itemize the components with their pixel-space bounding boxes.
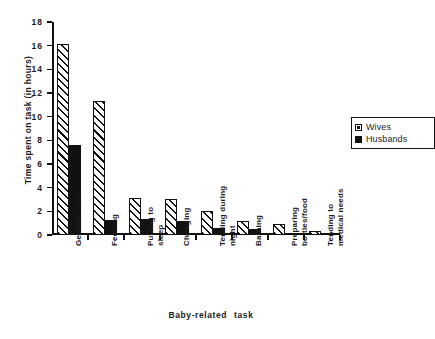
legend: Wives Husbands [351, 117, 435, 149]
y-axis-tick-label: 10 [32, 112, 43, 122]
x-axis-category-label: Tending tomedical needs [326, 188, 345, 246]
x-axis-category-label: Preparingbottles/food [290, 198, 309, 246]
bar-group [129, 22, 153, 235]
y-axis-tick: 18 [47, 21, 52, 22]
bar-group [165, 22, 189, 235]
x-axis-title: Baby-related task [0, 310, 422, 320]
legend-label-wives: Wives [366, 122, 391, 132]
y-axis-tick-label: 6 [37, 159, 43, 169]
bar-group [237, 22, 261, 235]
x-axis-category-label: Feeding [110, 214, 120, 246]
bar-wives [201, 211, 213, 235]
y-axis-tick: 10 [47, 116, 52, 117]
legend-swatch-wives-icon [355, 124, 362, 131]
y-axis-tick-label: 4 [37, 183, 43, 193]
bar-wives [129, 198, 141, 235]
y-axis-tick: 0 [47, 234, 52, 235]
bar-wives [57, 44, 69, 235]
x-axis-tick [123, 235, 124, 240]
legend-label-husbands: Husbands [366, 134, 407, 144]
y-axis-tick-label: 14 [32, 64, 43, 74]
legend-item-husbands: Husbands [355, 133, 431, 145]
x-axis-category-label: General care [74, 195, 84, 246]
bar-wives [165, 199, 177, 235]
x-axis-tick [267, 235, 268, 240]
y-axis-tick-label: 0 [37, 230, 43, 240]
x-axis-category-label: Bathing [254, 215, 264, 246]
y-axis-tick: 16 [47, 45, 52, 46]
bar-wives [237, 221, 249, 235]
x-axis-tick [195, 235, 196, 240]
legend-swatch-husbands-icon [355, 136, 362, 143]
y-axis-line [52, 22, 54, 235]
x-axis-tick [87, 235, 88, 240]
y-axis-tick: 8 [47, 140, 52, 141]
y-axis-tick: 4 [47, 187, 52, 188]
y-axis-tick-label: 16 [32, 41, 43, 51]
legend-item-wives: Wives [355, 121, 431, 133]
y-axis-tick-label: 8 [37, 135, 43, 145]
x-axis-category-label: Putting tosleep [146, 207, 165, 246]
y-axis-tick: 14 [47, 69, 52, 70]
y-axis-tick: 12 [47, 92, 52, 93]
bar-wives [93, 101, 105, 235]
y-axis-tick-label: 12 [32, 88, 43, 98]
x-axis-category-label: Tending duringnight [218, 186, 237, 246]
bar-wives [273, 224, 285, 235]
y-axis-tick-label: 2 [37, 206, 43, 216]
x-axis-category-label: Changing [182, 208, 192, 246]
bar-wives [309, 231, 321, 235]
bar-group [93, 22, 117, 235]
y-axis-tick: 2 [47, 211, 52, 212]
y-axis-tick: 6 [47, 163, 52, 164]
y-axis-tick-label: 18 [32, 17, 43, 27]
